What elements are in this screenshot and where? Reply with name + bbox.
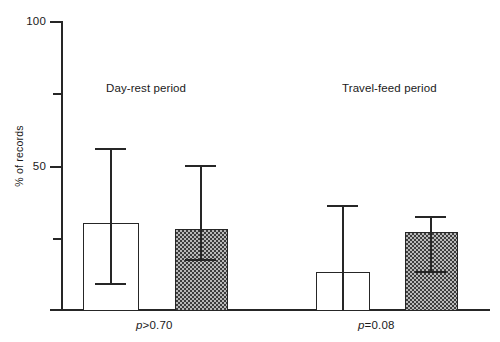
error-bar-cap-upper-day-rest-open <box>95 148 126 150</box>
group-label-travel-feed: Travel-feed period <box>342 82 437 94</box>
y-tick-50 <box>50 166 61 168</box>
chart-canvas: 100 50 % of records Day-rest period Trav… <box>0 0 500 342</box>
error-bar-cap-upper-day-rest-hatched <box>185 165 216 167</box>
y-tick-100 <box>50 21 61 23</box>
error-bar-cap-lower-day-rest-hatched <box>185 259 216 261</box>
error-bar-stem-day-rest-open <box>110 149 112 284</box>
y-tick-label-100: 100 <box>12 15 46 27</box>
y-axis-title: % of records <box>13 111 25 201</box>
y-tick-25 <box>53 238 61 240</box>
y-tick-75 <box>53 93 61 95</box>
p-symbol-day-rest: p <box>136 319 143 331</box>
error-bar-cap-upper-travel-feed-hatched <box>415 216 446 218</box>
y-tick-0 <box>50 309 61 311</box>
error-bar-stem-travel-feed-open <box>342 206 344 311</box>
group-label-day-rest: Day-rest period <box>106 82 186 94</box>
error-bar-stem-travel-feed-hatched <box>430 217 432 272</box>
p-rest-day-rest: >0.70 <box>143 319 173 331</box>
p-value-day-rest: p>0.70 <box>136 319 173 331</box>
error-bar-cap-lower-day-rest-open <box>95 283 126 285</box>
p-value-travel-feed: p=0.08 <box>358 319 395 331</box>
error-bar-cap-lower-travel-feed-hatched <box>415 271 446 273</box>
error-bar-stem-day-rest-hatched <box>200 166 202 261</box>
p-rest-travel-feed: =0.08 <box>365 319 395 331</box>
error-bar-cap-upper-travel-feed-open <box>327 205 358 207</box>
p-symbol-travel-feed: p <box>358 319 365 331</box>
y-axis-line <box>61 21 63 311</box>
